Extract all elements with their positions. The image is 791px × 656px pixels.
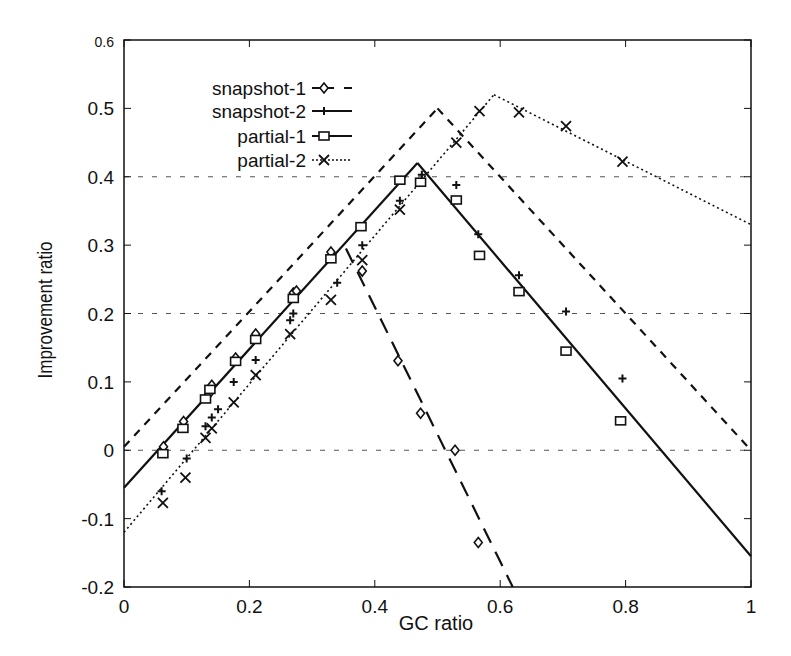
legend-partial-1-marker [319, 132, 329, 140]
partial-1-marker [158, 450, 168, 458]
axis-ticks: 00.20.40.60.810.60.50.40.30.20.10-0.1-0.… [81, 34, 756, 617]
partial-1-marker [356, 223, 366, 231]
snapshot-2-marker [208, 413, 216, 421]
snapshot-2-marker [214, 405, 222, 413]
partial-1-marker [514, 288, 524, 296]
partial-1-fit-line [417, 163, 751, 556]
partial-1-marker [178, 424, 188, 432]
partial-2-marker [229, 397, 239, 407]
y-tick-label: 0.3 [88, 235, 114, 256]
y-axis-label: Improvement ratio [34, 242, 57, 379]
partial-2-marker [251, 370, 261, 380]
partial-1-marker [475, 251, 485, 259]
partial-2-series [158, 106, 628, 508]
snapshot-1-marker [394, 356, 402, 366]
y-tick-label: 0 [103, 440, 114, 461]
snapshot-2-marker [452, 181, 460, 189]
y-tick-label: 0.6 [95, 34, 115, 50]
snapshot-2-series [158, 171, 627, 496]
partial-1-marker [288, 294, 298, 302]
partial-1-marker [451, 196, 461, 204]
x-tick-label: 0.6 [487, 596, 513, 617]
snapshot-2-marker [333, 279, 341, 287]
legend-item-partial-2: partial-2 [237, 150, 352, 171]
x-tick-label: 0.4 [362, 596, 389, 617]
legend-label: snapshot-2 [212, 101, 306, 122]
y-tick-label: -0.1 [81, 509, 114, 530]
chart: 00.20.40.60.810.60.50.40.30.20.10-0.1-0.… [0, 0, 791, 656]
snapshot-1-fit-line [346, 249, 513, 587]
snapshot-1-marker [417, 408, 425, 418]
partial-2-marker [475, 106, 485, 116]
partial-1-marker [416, 178, 426, 186]
partial-1-marker [326, 255, 336, 263]
legend-snapshot-1-marker [320, 83, 328, 93]
legend-item-partial-1: partial-1 [237, 126, 352, 147]
partial-2-fit-line [494, 95, 751, 225]
partial-1-marker [616, 417, 626, 425]
partial-1-marker [395, 176, 405, 184]
legend: snapshot-1snapshot-2partial-1partial-2 [212, 78, 352, 171]
partial-2-marker [514, 107, 524, 117]
legend-item-snapshot-1: snapshot-1 [212, 78, 352, 99]
partial-2-marker [617, 157, 627, 167]
snapshot-2-marker [358, 241, 366, 249]
partial-2-marker [357, 255, 367, 265]
snapshot-2-marker [618, 374, 626, 382]
legend-item-snapshot-2: snapshot-2 [212, 101, 352, 122]
legend-snapshot-2-marker [320, 107, 328, 115]
partial-1-marker [231, 357, 241, 365]
y-tick-label: 0.5 [88, 98, 114, 119]
partial-2-marker [326, 295, 336, 305]
partial-2-marker [207, 423, 217, 433]
partial-2-fit-line [124, 95, 494, 533]
y-tick-label: -0.2 [81, 577, 114, 598]
fit-lines [124, 95, 751, 587]
snapshot-2-fit-line [438, 108, 752, 450]
partial-2-marker [201, 433, 211, 443]
partial-2-marker [158, 498, 168, 508]
legend-label: partial-2 [237, 150, 306, 171]
snapshot-1-marker [474, 538, 482, 548]
x-tick-label: 0.8 [612, 596, 638, 617]
snapshot-1-marker [451, 445, 459, 455]
partial-1-marker [251, 335, 261, 343]
x-tick-label: 1 [746, 596, 757, 617]
partial-1-marker [205, 385, 215, 393]
legend-label: snapshot-1 [212, 78, 306, 99]
snapshot-2-marker [158, 487, 166, 495]
y-tick-label: 0.1 [88, 372, 114, 393]
partial-1-marker [201, 395, 211, 403]
partial-2-marker [451, 138, 461, 148]
partial-1-marker [561, 347, 571, 355]
partial-2-marker [285, 329, 295, 339]
snapshot-2-marker [230, 378, 238, 386]
y-tick-label: 0.4 [88, 167, 115, 188]
x-tick-label: 0 [119, 596, 130, 617]
snapshot-2-marker [289, 310, 297, 318]
snapshot-2-marker [252, 356, 260, 364]
x-axis-label: GC ratio [399, 612, 473, 634]
partial-1-series [158, 176, 626, 458]
x-tick-label: 0.2 [236, 596, 262, 617]
partial-2-marker [395, 205, 405, 215]
snapshot-2-marker [286, 316, 294, 324]
partial-2-marker [561, 121, 571, 131]
legend-label: partial-1 [237, 126, 306, 147]
snapshot-2-marker [562, 307, 570, 315]
snapshot-2-marker [202, 422, 210, 430]
partial-2-marker [180, 473, 190, 483]
partial-1-fit-line [124, 163, 417, 488]
y-tick-label: 0.2 [88, 304, 114, 325]
